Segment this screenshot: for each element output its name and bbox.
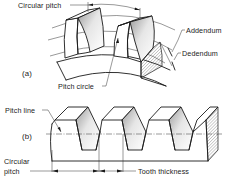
tooth-1-side <box>64 18 78 58</box>
label-circular-pitch-b-line2: pitch <box>4 167 20 176</box>
label-circular-pitch-a: Circular pitch <box>18 1 61 10</box>
label-circular-pitch-b-line1: Circular <box>4 157 30 166</box>
gear-segment-a: Circular pitch Addendum Dedendum Pitch c… <box>18 1 222 91</box>
label-dedendum: Dedendum <box>182 49 218 58</box>
gear-left-edge <box>57 62 66 80</box>
label-part-a: (a) <box>22 69 32 78</box>
rack-b: Pitch line (b) Circular pitch Tooth thic… <box>4 106 222 176</box>
label-pitch-circle: Pitch circle <box>58 82 94 91</box>
label-addendum: Addendum <box>186 26 222 35</box>
label-tooth-thickness: Tooth thickness <box>138 167 189 176</box>
gear-tooth-diagram: Circular pitch Addendum Dedendum Pitch c… <box>0 0 227 184</box>
label-part-b: (b) <box>22 132 32 141</box>
label-pitch-line: Pitch line <box>5 106 35 115</box>
